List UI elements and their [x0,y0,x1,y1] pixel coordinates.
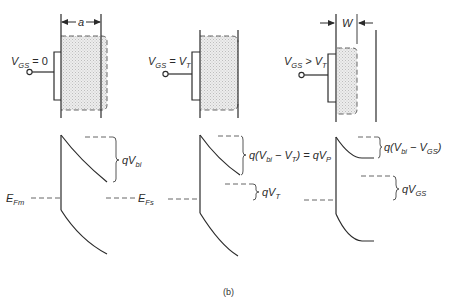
device-structure: VGS = VT [148,30,238,118]
valence-band [336,214,374,241]
gate-electrode [192,52,200,100]
fermi-semi-label: EFs [138,192,154,207]
bias-label: VGS = 0 [11,55,48,70]
barrier-brace [113,137,119,182]
device-structure: a VGS = 0 [11,14,107,118]
dimension-w-label: W [342,17,354,29]
gate-electrode [54,52,61,100]
bias-label: VGS > VT [284,55,328,70]
shift-brace [253,184,259,200]
panel-vgs-gt-vt: W VGS > VT q(Vbi − VGS) qVGS [284,14,442,241]
barrier-label: qVbi [122,154,142,169]
valence-band [200,213,238,256]
barrier-label: q(Vbi − VT) = qVP [249,149,331,164]
panel-vgs-zero: a VGS = 0 qVbi EFm EFs [6,14,154,254]
bias-label: VGS = VT [148,55,192,70]
gate-terminal [163,71,168,76]
jfet-depletion-diagram: a VGS = 0 qVbi EFm EFs VGS = VT [0,0,453,307]
figure-caption: (b) [223,287,234,297]
barrier-brace [378,137,382,158]
conduction-band [336,137,374,158]
valence-band [61,210,107,254]
depletion-region [337,48,357,114]
shift-brace [393,176,399,200]
fermi-metal-label: EFm [6,192,24,207]
gate-terminal [27,69,32,74]
band-diagram: qVbi EFm EFs [6,135,154,254]
conduction-band [200,135,240,175]
depletion-region [200,36,238,110]
depletion-region [61,36,107,110]
gate-terminal [299,72,304,77]
dimension-a-label: a [78,16,84,28]
shift-label: qVGS [402,183,426,198]
barrier-label: q(Vbi − VGS) [384,141,442,156]
shift-label: qVT [262,186,281,201]
band-diagram: q(Vbi − VT) = qVP qVT [168,135,331,256]
device-structure: W VGS > VT [284,14,376,122]
gate-electrode [328,54,336,102]
conduction-band [61,135,107,182]
barrier-brace [241,136,246,175]
